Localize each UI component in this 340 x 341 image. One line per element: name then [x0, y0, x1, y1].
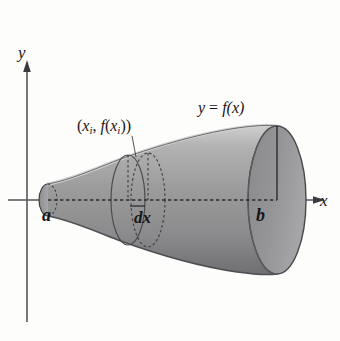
curve-equation-equals: = [205, 99, 222, 116]
figure-canvas: y x a b dx y = f(x) (xi, f(xi)) [0, 0, 340, 341]
y-axis-label: y [18, 44, 26, 61]
thickness-label: dx [134, 209, 151, 226]
solid-of-revolution-drawing [0, 0, 340, 341]
curve-equation-arg: (x) [227, 99, 245, 116]
lower-limit-label: a [42, 206, 51, 224]
sample-point-label: (xi, f(xi)) [77, 118, 131, 136]
x-axis-label: x [320, 192, 328, 209]
upper-limit-label: b [256, 206, 265, 224]
curve-equation-label: y = f(x) [198, 100, 244, 116]
sample-point-close: )) [120, 117, 131, 134]
